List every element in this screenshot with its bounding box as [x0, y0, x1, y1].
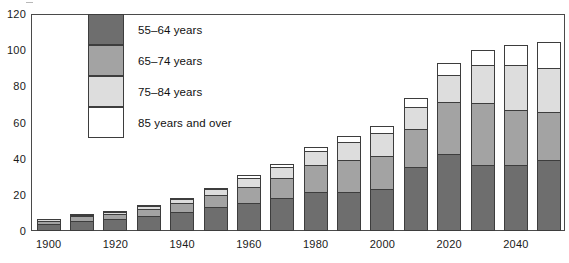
bar-segment [437, 63, 461, 75]
bar-segment [237, 187, 261, 203]
x-axis-label: 1960 [236, 238, 261, 250]
bar-segment [537, 68, 561, 112]
bar-segment [437, 154, 461, 231]
bar-segment [471, 65, 495, 104]
x-axis-label: 2000 [370, 238, 395, 250]
bar-segment [504, 110, 528, 165]
legend-item: 65–74 years [88, 45, 288, 76]
bar-segment [504, 165, 528, 231]
bar-segment [237, 203, 261, 231]
legend-item: 85 years and over [88, 107, 288, 138]
bar-segment [370, 189, 394, 231]
bar-1960 [237, 175, 261, 231]
bar-segment [337, 160, 361, 193]
x-axis-label: 2020 [437, 238, 462, 250]
bar-1910 [70, 214, 94, 231]
bar-segment [471, 103, 495, 165]
bar-segment [404, 167, 428, 231]
y-axis-label: 20 [13, 190, 26, 201]
bar-1950 [204, 188, 228, 231]
bar-segment [337, 192, 361, 231]
y-axis-label: 120 [7, 9, 26, 20]
bar-segment [270, 178, 294, 198]
x-axis: 19001920194019601980200020202040 [0, 236, 569, 258]
legend: 55–64 years 65–74 years 75–84 years 85 y… [88, 14, 288, 138]
bar-segment [204, 207, 228, 231]
bar-segment [337, 142, 361, 160]
bar-segment [471, 165, 495, 231]
legend-label: 65–74 years [138, 55, 202, 67]
bar-segment [504, 65, 528, 111]
y-axis-label: 100 [7, 45, 26, 56]
legend-item: 55–64 years [88, 14, 288, 45]
x-axis-label: 1900 [36, 238, 61, 250]
bar-segment [170, 212, 194, 231]
legend-swatch-75-84 [88, 76, 124, 107]
bar-segment [103, 219, 127, 231]
bar-1930 [137, 205, 161, 231]
y-axis: 120 100 80 60 40 20 0 [0, 0, 31, 263]
y-axis-label: 40 [13, 154, 26, 165]
bar-segment [270, 167, 294, 179]
y-axis-label: 80 [13, 81, 26, 92]
y-axis-label: 60 [13, 118, 26, 129]
bar-2040 [504, 45, 528, 231]
bar-1990 [337, 136, 361, 231]
bar-segment [370, 133, 394, 156]
bar-segment [404, 107, 428, 130]
x-axis-label: 1920 [103, 238, 128, 250]
bar-2000 [370, 126, 394, 231]
bar-segment [537, 42, 561, 69]
x-axis-label: 2040 [503, 238, 528, 250]
bar-2020 [437, 63, 461, 231]
x-axis-label: 1980 [303, 238, 328, 250]
bar-1920 [103, 211, 127, 231]
bar-1940 [170, 198, 194, 231]
bar-1980 [304, 147, 328, 231]
bar-segment [70, 221, 94, 231]
bar-segment [304, 192, 328, 231]
bar-segment [304, 165, 328, 193]
bar-segment [370, 156, 394, 189]
bar-segment [471, 50, 495, 65]
bar-segment [437, 102, 461, 154]
bar-2010 [404, 98, 428, 231]
bar-segment [304, 151, 328, 165]
legend-swatch-55-64 [88, 14, 124, 45]
stacked-bar-chart: 120 100 80 60 40 20 0 55–64 years 65–74 … [0, 0, 569, 263]
x-axis-label: 1940 [170, 238, 195, 250]
legend-label: 55–64 years [138, 24, 202, 36]
bar-segment [404, 129, 428, 167]
bar-2030 [471, 50, 495, 231]
legend-label: 85 years and over [138, 117, 232, 129]
bar-segment [537, 160, 561, 231]
bar-segment [437, 75, 461, 103]
bar-1970 [270, 164, 294, 231]
bar-segment [204, 195, 228, 207]
legend-item: 75–84 years [88, 76, 288, 107]
legend-swatch-85-over [88, 107, 124, 138]
legend-swatch-65-74 [88, 45, 124, 76]
bar-segment [537, 112, 561, 161]
bar-segment [270, 198, 294, 231]
bar-segment [37, 224, 61, 231]
bar-2050 [537, 42, 561, 231]
bar-segment [237, 178, 261, 188]
bar-1900 [37, 219, 61, 231]
legend-label: 75–84 years [138, 86, 202, 98]
bar-segment [137, 216, 161, 231]
bar-segment [404, 98, 428, 108]
bar-segment [504, 45, 528, 65]
